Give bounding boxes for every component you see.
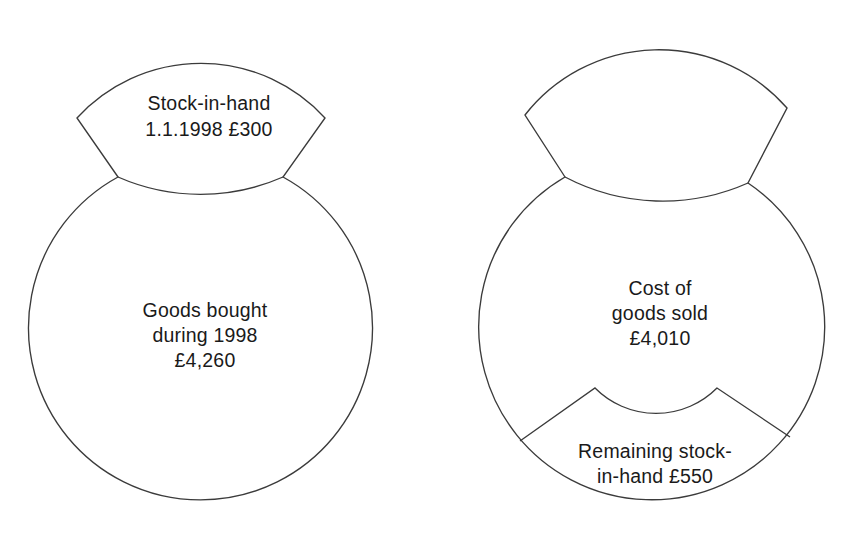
right-body-line-1: Cost of (628, 277, 692, 299)
left-body-line-1: Goods bought (143, 299, 268, 321)
left-body-line-2: during 1998 (152, 324, 257, 346)
right-shape-outline[interactable] (479, 50, 825, 500)
left-body-line-3: £4,260 (175, 349, 236, 371)
left-upper-lobe-line-2: 1.1.1998 £300 (145, 118, 272, 140)
right-bottom-line-2: in-hand £550 (597, 465, 713, 487)
left-upper-lobe-line-1: Stock-in-hand (148, 92, 271, 114)
right-bottom-line-1: Remaining stock- (578, 440, 732, 462)
right-body-line-3: £4,010 (630, 327, 691, 349)
diagram-root: Stock-in-hand 1.1.1998 £300 Goods bought… (0, 0, 857, 537)
right-body-line-2: goods sold (612, 302, 708, 324)
diagram-canvas: Stock-in-hand 1.1.1998 £300 Goods bought… (0, 0, 857, 537)
left-shape-group[interactable]: Stock-in-hand 1.1.1998 £300 Goods bought… (28, 63, 372, 500)
right-shape-group[interactable]: Cost of goods sold £4,010 Remaining stoc… (479, 50, 825, 500)
